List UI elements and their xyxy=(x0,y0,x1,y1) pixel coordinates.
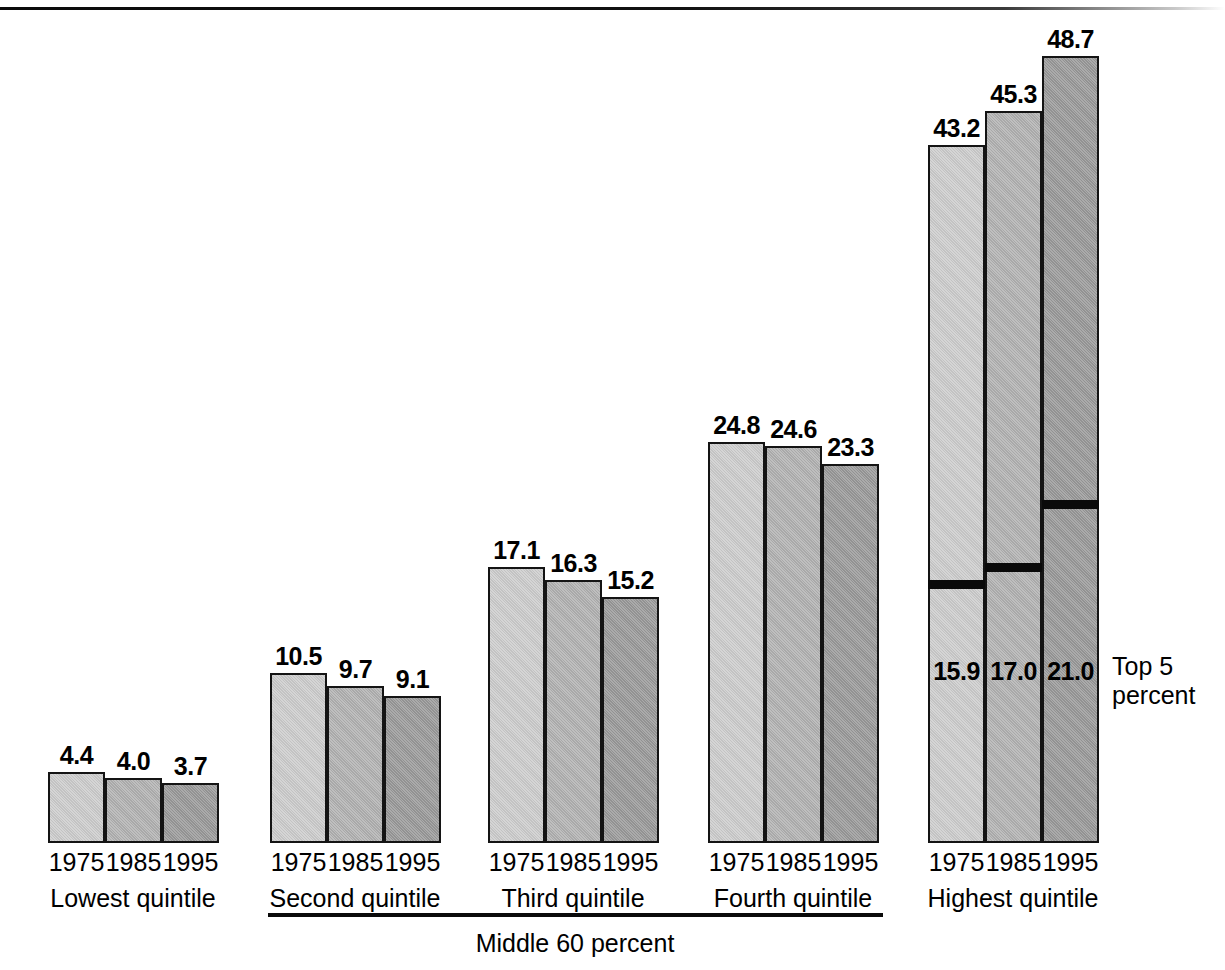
chart-figure: 4.4 4.0 3.7 1975 1985 1995 Lowest quinti… xyxy=(0,0,1225,970)
bar-second-1975 xyxy=(270,673,327,843)
value-label: 43.2 xyxy=(926,116,987,141)
year-tick-label: 1995 xyxy=(155,850,226,875)
value-label: 4.0 xyxy=(105,749,162,774)
bar-highest-1995 xyxy=(1042,56,1099,843)
year-tick-label: 1995 xyxy=(815,850,886,875)
top5-annotation-line1: Top 5 xyxy=(1112,652,1195,681)
top5-annotation-line2: percent xyxy=(1112,681,1195,710)
year-tick-label: 1995 xyxy=(595,850,666,875)
bar-highest-1985 xyxy=(985,111,1042,843)
value-label: 3.7 xyxy=(162,754,219,779)
bar-lowest-1995 xyxy=(162,783,219,843)
bar-lowest-1985 xyxy=(105,778,162,843)
bar-second-1985 xyxy=(327,686,384,843)
value-label: 16.3 xyxy=(543,551,604,576)
value-label: 17.1 xyxy=(486,538,547,563)
top5-percent-annotation: Top 5 percent xyxy=(1112,652,1195,710)
plot-area: 4.4 4.0 3.7 1975 1985 1995 Lowest quinti… xyxy=(0,0,1225,970)
top5-value-label-1995: 21.0 xyxy=(1040,659,1101,684)
value-label: 45.3 xyxy=(983,82,1044,107)
top5-value-label-1985: 17.0 xyxy=(983,659,1044,684)
bar-third-1985 xyxy=(545,580,602,843)
value-label: 23.3 xyxy=(820,435,881,460)
group-label-lowest-quintile: Lowest quintile xyxy=(13,886,253,911)
top5-divider-mark-1975 xyxy=(928,580,985,589)
group-label-fourth-quintile: Fourth quintile xyxy=(673,886,913,911)
bar-fourth-1975 xyxy=(708,442,765,843)
group-label-second-quintile: Second quintile xyxy=(235,886,475,911)
bar-fourth-1995 xyxy=(822,464,879,843)
value-label: 9.7 xyxy=(327,657,384,682)
group-label-highest-quintile: Highest quintile xyxy=(893,886,1133,911)
bar-highest-1975 xyxy=(928,145,985,843)
bar-fourth-1985 xyxy=(765,446,822,843)
middle60-bracket-line xyxy=(268,913,883,917)
bar-third-1995 xyxy=(602,597,659,843)
year-tick-label: 1995 xyxy=(377,850,448,875)
value-label: 10.5 xyxy=(268,644,329,669)
value-label: 24.6 xyxy=(763,417,824,442)
bar-third-1975 xyxy=(488,567,545,843)
top5-value-label-1975: 15.9 xyxy=(926,659,987,684)
top5-divider-mark-1995 xyxy=(1042,500,1099,509)
group-label-third-quintile: Third quintile xyxy=(453,886,693,911)
top5-divider-mark-1985 xyxy=(985,563,1042,572)
bar-second-1995 xyxy=(384,696,441,843)
value-label: 15.2 xyxy=(600,568,661,593)
bar-lowest-1975 xyxy=(48,772,105,843)
value-label: 9.1 xyxy=(384,667,441,692)
value-label: 4.4 xyxy=(48,743,105,768)
value-label: 48.7 xyxy=(1040,27,1101,52)
year-tick-label: 1995 xyxy=(1035,850,1106,875)
value-label: 24.8 xyxy=(706,413,767,438)
middle60-caption: Middle 60 percent xyxy=(435,931,715,956)
